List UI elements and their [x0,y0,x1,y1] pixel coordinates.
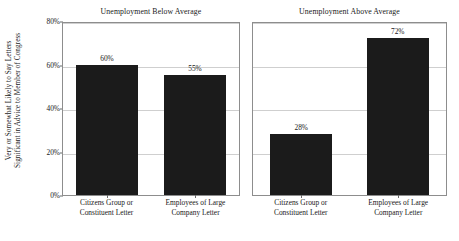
x-label-left-employees-large-company: Employees of Large Company Letter [155,198,237,217]
y-tick-label-0: 0% [34,192,60,200]
bar-left-citizens-group[interactable]: 60% [76,65,138,196]
x-axis-labels-right: Citizens Group or Constituent Letter Emp… [252,198,447,217]
y-tick-label-80: 80% [34,18,60,26]
bar-value-right-employees-large-company: 72% [391,27,405,36]
bar-slot-citizens-group: 60% [68,23,145,195]
panel-unemployment-below-average: Unemployment Below Average 60% 55% [62,22,240,196]
x-label-left-1-line-1: Citizens Group or [66,198,148,208]
bar-slot-citizens-group-right: 28% [259,23,344,195]
bar-right-employees-large-company[interactable]: 72% [367,38,429,195]
y-axis: 80% 60% 40% 20% 0% [30,0,60,241]
panel-title-right: Unemployment Above Average [252,7,447,17]
plot-area-left: 60% 55% [62,22,240,196]
panel-unemployment-above-average: Unemployment Above Average 28% 72% [252,22,447,196]
x-label-right-1-line-1: Citizens Group or [256,198,346,208]
x-axis-labels-left: Citizens Group or Constituent Letter Emp… [62,198,240,217]
panel-title-left: Unemployment Below Average [62,7,240,17]
bar-group-left: 60% 55% [63,23,239,195]
y-tick-label-60: 60% [34,62,60,70]
bar-slot-employees-large-company: 55% [156,23,233,195]
bar-value-left-citizens-group: 60% [100,54,114,63]
x-label-left-citizens-group: Citizens Group or Constituent Letter [66,198,148,217]
x-label-right-2-line-2: Company Letter [353,208,443,218]
y-axis-title-line-1: Very or Somewhat Likely to Say Letters [6,32,15,167]
bar-left-employees-large-company[interactable]: 55% [164,75,226,195]
x-label-right-2-line-1: Employees of Large [353,198,443,208]
bar-slot-employees-large-company-right: 72% [355,23,440,195]
bar-group-right: 28% 72% [253,23,446,195]
x-label-right-1-line-2: Constituent Letter [256,208,346,218]
x-label-right-employees-large-company: Employees of Large Company Letter [353,198,443,217]
x-label-left-1-line-2: Constituent Letter [66,208,148,218]
bar-value-right-citizens-group: 28% [294,123,308,132]
plot-area-right: 28% 72% [252,22,447,196]
bar-chart-figure: Very or Somewhat Likely to Say Letters S… [0,0,459,241]
y-axis-title-line-2: Significant in Advice to Member of Congr… [15,32,24,167]
y-tick-label-20: 20% [34,149,60,157]
x-label-left-2-line-2: Company Letter [155,208,237,218]
x-label-left-2-line-1: Employees of Large [155,198,237,208]
y-axis-title: Very or Somewhat Likely to Say Letters S… [0,0,30,200]
bar-right-citizens-group[interactable]: 28% [270,134,332,195]
y-tick-label-40: 40% [34,105,60,113]
x-label-right-citizens-group: Citizens Group or Constituent Letter [256,198,346,217]
bar-value-left-employees-large-company: 55% [188,64,202,73]
